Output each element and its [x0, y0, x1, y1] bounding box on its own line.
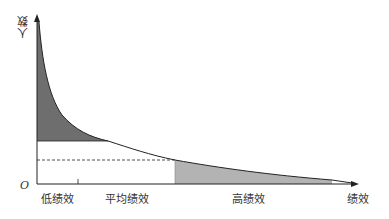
low-performance-label: 低绩效 — [41, 190, 74, 206]
origin-label: O — [20, 179, 29, 192]
y-axis-arrow-icon — [34, 14, 40, 22]
high-performance-label: 高绩效 — [232, 190, 265, 206]
average-performance-label: 平均绩效 — [105, 190, 149, 206]
distribution-curve — [39, 22, 352, 183]
y-axis-label: 人数 — [16, 16, 32, 38]
performance-distribution-diagram — [0, 0, 389, 219]
x-axis-label: 绩效 — [347, 190, 369, 206]
x-axis-arrow-icon — [351, 181, 359, 187]
